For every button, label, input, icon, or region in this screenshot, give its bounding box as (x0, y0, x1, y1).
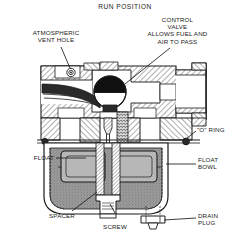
label-float: FLOAT (8, 154, 54, 161)
screw (96, 195, 120, 218)
leader-atmospheric-vent-hole (61, 47, 70, 68)
leader-drain-plug (164, 218, 196, 220)
label-spacer: SPACER (38, 212, 86, 219)
label-o-ring: "O" RING (197, 126, 247, 133)
label-screw: SCREW (93, 223, 137, 230)
label-control-valve: CONTROL VALVE ALLOWS FUEL AND AIR TO PAS… (125, 16, 230, 45)
label-atmospheric-vent-hole: ATMOSPHERIC VENT HOLE (16, 29, 96, 43)
label-drain-plug: DRAIN PLUG (198, 212, 244, 226)
diagram-canvas: RUN POSITION (0, 0, 250, 238)
label-float-bowl: FLOAT BOWL (198, 156, 244, 170)
spring-thread (117, 112, 128, 144)
